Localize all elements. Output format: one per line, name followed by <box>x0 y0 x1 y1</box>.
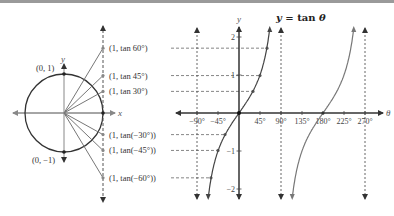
tangent-point <box>101 74 104 77</box>
tan-curve-branch-2-arrow-down <box>290 194 295 200</box>
bottom-point-label: (0, −1) <box>32 155 55 165</box>
point-top <box>62 72 66 76</box>
x-tick-label: −90° <box>189 117 205 126</box>
x-tick-label: 135° <box>294 117 309 126</box>
tangent-point-label: (1, tan 30°) <box>109 86 148 96</box>
y-tick-label: −1 <box>226 147 235 156</box>
tangent-point-label: (1, tan 60°) <box>109 43 148 53</box>
y-tick-label: 2 <box>231 33 235 42</box>
tangent-point <box>101 176 104 179</box>
x-tick-label: 90° <box>275 117 286 126</box>
x-tick-label: −45° <box>210 117 226 126</box>
tangent-point <box>101 90 104 93</box>
point-bottom <box>62 150 66 154</box>
x-tick-label: 270° <box>357 117 372 126</box>
y-tick-label: −2 <box>226 185 235 194</box>
point-180 <box>321 111 324 114</box>
tangent-point <box>101 133 104 136</box>
x-axis-label: x <box>117 108 122 118</box>
tangent-graph-panel: θy−90°−45°45°90°135°180°225°270°21−1−2 <box>171 14 391 200</box>
tangent-point-label: (1, tan(−45°)) <box>109 145 156 155</box>
tan-curve-branch-1-arrow-up <box>267 26 272 32</box>
tangent-point <box>101 47 104 50</box>
tan-curve-branch-2-arrow-up <box>351 26 356 32</box>
tangent-point-label: (1, tan(−60°)) <box>109 173 156 183</box>
y-axis-label: y <box>60 54 65 64</box>
tangent-point <box>101 149 104 152</box>
x-tick-label: 45° <box>254 117 265 126</box>
graph-y-axis-label: y <box>236 14 241 24</box>
y-tick-label: 1 <box>231 71 235 80</box>
origin-point <box>237 111 241 115</box>
point-right <box>101 111 105 115</box>
tangent-point-label: (1, tan 45°) <box>109 71 148 81</box>
theta-axis-label: θ <box>386 108 391 118</box>
tangent-diagram: xy(0, 1)(0, −1)(1, tan 60°)(1, tan 45°)(… <box>0 0 394 216</box>
unit-circle-panel: xy(0, 1)(0, −1)(1, tan 60°)(1, tan 45°)(… <box>13 26 156 202</box>
top-point-label: (0, 1) <box>36 63 55 73</box>
x-tick-label: 225° <box>336 117 351 126</box>
tan-curve-branch-1-arrow-down <box>206 194 211 200</box>
tangent-point-label: (1, tan(−30°)) <box>109 130 156 140</box>
graph-title: y = tan θ <box>275 12 326 23</box>
